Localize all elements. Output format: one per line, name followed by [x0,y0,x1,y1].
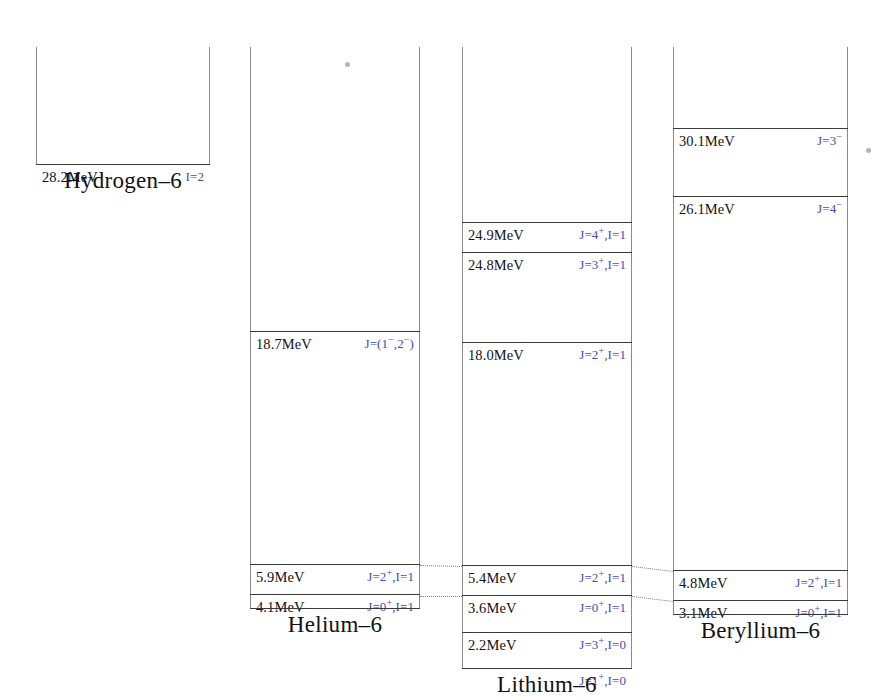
level-spin-isospin-value: J=3+,I=1 [579,257,626,273]
energy-level-label: 5.9MeVJ=2+,I=1 [250,566,420,588]
energy-level-label: 4.8MeVJ=2+,I=1 [673,572,848,594]
energy-level-line [250,564,420,565]
level-energy-value: 24.8MeV [468,257,524,274]
nuclide-caption: Lithium–6 [462,672,632,698]
nuclide-caption: Beryllium–6 [673,618,848,644]
energy-level-line [673,128,848,129]
energy-level-label: 30.1MeVJ=3− [673,130,848,152]
level-energy-value: 3.6MeV [468,600,517,617]
energy-level-line [462,595,632,596]
energy-level-line [250,594,420,595]
level-energy-value: 5.9MeV [256,569,305,586]
energy-level-diagram: 28.2MeVI=218.7MeVJ=(1−,2−)5.9MeVJ=2+,I=1… [0,0,890,700]
nuclide-caption: Hydrogen–6 [36,168,210,194]
energy-level-line [462,632,632,633]
level-energy-value: 18.0MeV [468,347,524,364]
level-energy-value: 4.8MeV [679,575,728,592]
analog-state-connector [632,596,673,602]
level-spin-isospin-value: J=4+,I=1 [579,227,626,243]
energy-level-line [673,196,848,197]
analog-state-connector [420,596,462,597]
energy-level-label: 3.6MeVJ=0+,I=1 [462,597,632,619]
energy-level-line [250,608,420,609]
column-rail-left [462,47,463,668]
energy-level-label: 2.2MeVJ=3+,I=0 [462,634,632,656]
column-rail-right [847,47,848,614]
level-spin-isospin-value: J=0+,I=1 [579,600,626,616]
energy-level-line [673,570,848,571]
stray-speck-center [345,62,350,67]
nuclide-caption: Helium–6 [250,612,420,638]
column-rail-right [419,47,420,608]
level-energy-value: 30.1MeV [679,133,735,150]
energy-level-line [673,600,848,601]
energy-level-label: 26.1MeVJ=4− [673,198,848,220]
column-rail-left [673,47,674,614]
level-spin-isospin-value: J=4− [817,201,842,217]
energy-level-line [673,614,848,615]
level-spin-isospin-value: J=2+,I=1 [579,570,626,586]
energy-level-label: 24.9MeVJ=4+,I=1 [462,224,632,246]
nuclide-column-lithium-6: 24.9MeVJ=4+,I=124.8MeVJ=3+,I=118.0MeVJ=2… [462,47,632,668]
level-spin-isospin-value: J=(1−,2−) [364,336,414,352]
nuclide-column-helium-6: 18.7MeVJ=(1−,2−)5.9MeVJ=2+,I=14.1MeVJ=0+… [250,47,420,608]
level-spin-isospin-value: J=2+,I=1 [367,569,414,585]
column-rail-right [209,47,210,164]
nuclide-column-beryllium-6: 30.1MeVJ=3−26.1MeVJ=4−4.8MeVJ=2+,I=13.1M… [673,47,848,614]
energy-level-label: 5.4MeVJ=2+,I=1 [462,567,632,589]
level-energy-value: 26.1MeV [679,201,735,218]
energy-level-label: 18.0MeVJ=2+,I=1 [462,344,632,366]
level-energy-value: 24.9MeV [468,227,524,244]
energy-level-label: 24.8MeVJ=3+,I=1 [462,254,632,276]
nuclide-column-hydrogen-6: 28.2MeVI=2 [36,47,210,164]
column-rail-right [631,47,632,668]
stray-speck-right [866,148,871,153]
level-spin-isospin-value: J=2+,I=1 [795,575,842,591]
analog-state-connector [632,566,673,572]
energy-level-line [462,222,632,223]
energy-level-line [462,252,632,253]
energy-level-line [462,565,632,566]
level-spin-isospin-value: J=2+,I=1 [579,347,626,363]
column-rail-left [250,47,251,608]
level-energy-value: 5.4MeV [468,570,517,587]
energy-level-line [462,668,632,669]
analog-state-connector [420,565,462,567]
level-energy-value: 2.2MeV [468,637,517,654]
energy-level-label: 18.7MeVJ=(1−,2−) [250,333,420,355]
energy-level-line [250,331,420,332]
energy-level-line [36,164,210,165]
level-energy-value: 18.7MeV [256,336,312,353]
energy-level-line [462,342,632,343]
level-spin-isospin-value: J=3+,I=0 [579,637,626,653]
column-rail-left [36,47,37,164]
level-spin-isospin-value: J=3− [817,133,842,149]
